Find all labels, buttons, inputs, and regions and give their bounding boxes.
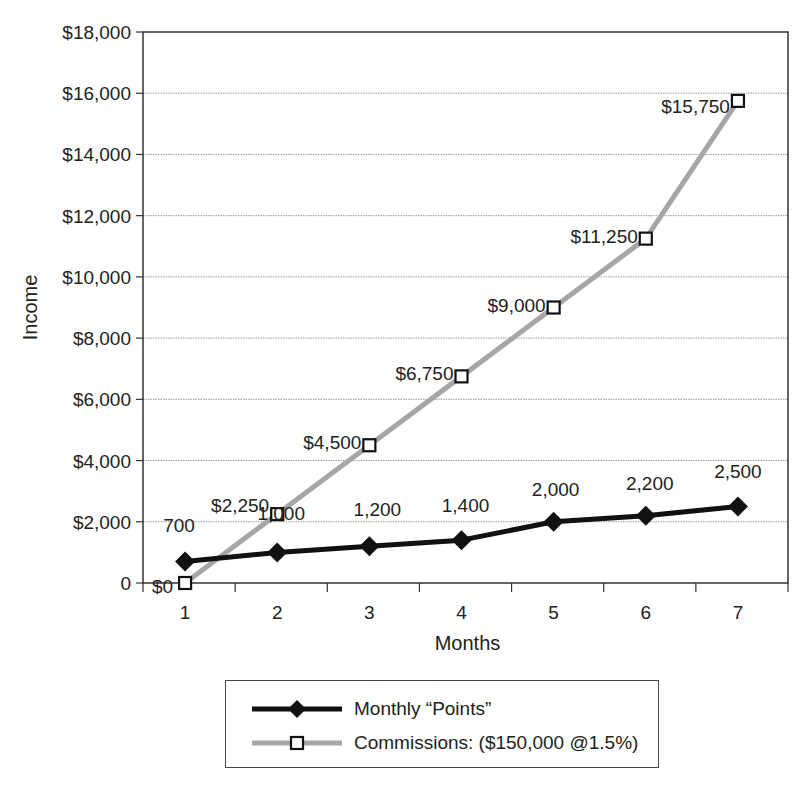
y-tick-label: $18,000 (62, 22, 131, 43)
y-tick-label: $14,000 (62, 144, 131, 165)
y-tick-label: $4,000 (73, 451, 131, 472)
y-tick-label: 0 (120, 573, 131, 594)
legend-item-commissions: Commissions: ($150,000 @1.5%) (226, 728, 638, 758)
data-label: $15,750 (661, 96, 730, 117)
diamond-marker (636, 506, 656, 526)
diamond-marker (267, 542, 287, 562)
diamond-marker (728, 496, 748, 516)
legend-label: Commissions: ($150,000 @1.5%) (354, 732, 638, 754)
y-axis: 0$2,000$4,000$6,000$8,000$10,000$12,000$… (62, 22, 143, 594)
data-label: $4,500 (303, 432, 361, 453)
diamond-marker (452, 530, 472, 550)
legend-item-monthly-points: Monthly “Points” (226, 694, 491, 724)
data-label: 700 (163, 515, 195, 536)
square-marker (456, 370, 468, 382)
data-label: $0 (152, 576, 173, 597)
y-tick-label: $8,000 (73, 328, 131, 349)
filled-diamond-line-icon (252, 694, 342, 724)
x-tick-label: 6 (640, 602, 651, 623)
legend: Monthly “Points” Commissions: ($150,000 … (225, 680, 659, 768)
x-tick-label: 3 (364, 602, 375, 623)
x-tick-label: 7 (733, 602, 744, 623)
legend-label: Monthly “Points” (354, 698, 491, 720)
data-label: 2,000 (532, 479, 580, 500)
y-tick-label: $16,000 (62, 83, 131, 104)
diamond-marker (175, 552, 195, 572)
data-label: 1,000 (257, 503, 305, 524)
data-label: $6,750 (395, 363, 453, 384)
data-label: 1,400 (442, 495, 490, 516)
square-marker (640, 233, 652, 245)
square-marker (732, 95, 744, 107)
y-tick-label: $2,000 (73, 512, 131, 533)
x-tick-label: 2 (272, 602, 283, 623)
x-tick-label: 4 (456, 602, 467, 623)
square-marker (548, 302, 560, 314)
x-axis-title: Months (435, 632, 501, 654)
gridlines (143, 93, 788, 522)
x-tick-label: 5 (548, 602, 559, 623)
data-label: 2,200 (626, 473, 674, 494)
y-tick-label: $10,000 (62, 267, 131, 288)
series-monthly-points: 7001,0001,2001,4002,0002,2002,500 (163, 461, 761, 571)
y-axis-title: Income (19, 275, 41, 341)
hollow-square-line-icon (252, 728, 342, 758)
y-tick-label: $6,000 (73, 389, 131, 410)
data-label: $11,250 (571, 226, 638, 247)
square-marker (363, 439, 375, 451)
square-marker (179, 577, 191, 589)
x-axis: 1234567 (143, 583, 788, 623)
diamond-marker (544, 512, 564, 532)
data-label: 2,500 (714, 461, 762, 482)
y-tick-label: $12,000 (62, 206, 131, 227)
data-label: $9,000 (488, 295, 546, 316)
x-tick-label: 1 (180, 602, 191, 623)
line-chart: 0$2,000$4,000$6,000$8,000$10,000$12,000$… (0, 0, 803, 790)
diamond-marker (359, 536, 379, 556)
data-label: 1,200 (354, 499, 402, 520)
